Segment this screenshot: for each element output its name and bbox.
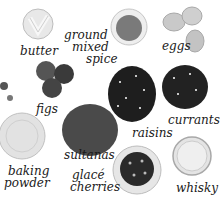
raisins-label: raisins xyxy=(132,128,173,139)
butter-label: butter xyxy=(20,46,58,57)
eggs-label: eggs xyxy=(162,41,191,52)
figs-image xyxy=(34,60,76,100)
whisky-image xyxy=(172,136,212,176)
currants-label: currants xyxy=(168,115,220,126)
baking-powder-label-line2: powder xyxy=(4,178,50,189)
currants-image xyxy=(160,62,210,112)
sultanas-label: sultanas xyxy=(64,150,115,161)
whisky-label: whisky xyxy=(176,183,218,194)
partial-fruit-image xyxy=(0,80,14,106)
ground-mixed-spice-image xyxy=(110,8,148,46)
glace-cherries-label-line2: cherries xyxy=(70,182,120,193)
butter-image xyxy=(22,8,54,40)
ingredients-illustration: butter ground mixed spice eggs figs xyxy=(0,0,221,197)
baking-powder-image xyxy=(0,112,48,160)
